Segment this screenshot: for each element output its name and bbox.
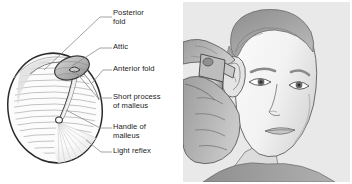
otoscope-lens [203,58,213,66]
label-attic-line1: Attic [113,43,128,52]
label-attic: Attic [113,43,128,52]
label-anterior-fold-line1: Anterior fold [113,65,155,74]
eardrum-diagram-panel: Posterior fold Attic Anterior fold Short… [0,0,178,184]
umbo [56,117,63,123]
label-anterior-fold: Anterior fold [113,65,155,74]
label-light-reflex-line1: Light reflex [113,147,151,156]
label-posterior-fold: Posterior fold [113,9,144,26]
label-handle-of-malleus: Handle of malleus [113,123,146,140]
tympanic-membrane [0,46,110,169]
otoscopy-illustration [183,2,350,182]
label-light-reflex: Light reflex [113,147,151,156]
otoscopy-image [183,2,350,182]
label-short-process-of-malleus: Short process of malleus [113,93,161,110]
label-handle-line2: malleus [113,132,146,141]
label-short-process-line2: of malleus [113,102,161,111]
medical-figure: Posterior fold Attic Anterior fold Short… [0,0,352,184]
label-posterior-fold-line2: fold [113,18,144,27]
otoscopy-panel [178,0,352,184]
